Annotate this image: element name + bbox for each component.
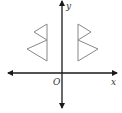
x-axis-label: x xyxy=(111,77,116,87)
y-axis-label: y xyxy=(65,1,72,11)
left-figure xyxy=(27,24,47,61)
right-figure xyxy=(78,24,98,61)
origin-label: O xyxy=(53,77,61,87)
coordinate-diagram: y x O xyxy=(0,0,122,113)
diagram-svg: y x O xyxy=(0,0,122,113)
